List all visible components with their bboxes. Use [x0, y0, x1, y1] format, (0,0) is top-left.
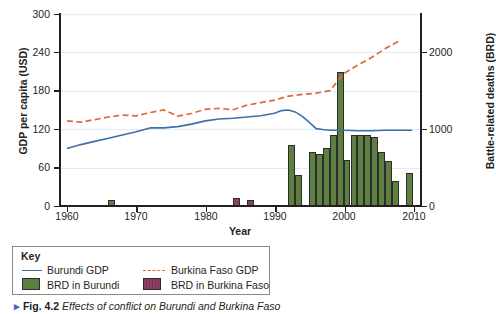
y-tick-left-0 [54, 206, 60, 208]
plot-area [60, 14, 421, 206]
y-tick-right-1000 [421, 129, 427, 131]
y-axis-right-label-0: 0 [429, 201, 473, 211]
legend-label-brd-burkina-faso: BRD in Burkina Faso [171, 279, 269, 291]
y-axis-right-title: Battle-related deaths (BRD) [484, 1, 496, 201]
y-tick-left-300 [54, 14, 60, 16]
legend-title: Key [21, 250, 40, 262]
legend-marker-burundi-gdp [22, 270, 42, 272]
legend-marker-burkina-faso-gdp [143, 270, 165, 271]
y-tick-left-120 [54, 129, 60, 131]
legend-marker-brd-burkina-faso [143, 278, 161, 290]
x-axis-label-1990: 1990 [253, 211, 297, 222]
x-axis-label-1970: 1970 [114, 211, 158, 222]
legend-label-burundi-gdp: Burundi GDP [47, 264, 109, 276]
caption-text: Effects of conflict on Burundi and Burki… [62, 300, 280, 312]
y-tick-left-240 [54, 52, 60, 54]
y-tick-left-60 [54, 167, 60, 169]
y-axis-left-line [59, 13, 61, 207]
caption-bullet-icon: ▸ [14, 300, 20, 312]
figure-caption: ▸ Fig. 4.2 Effects of conflict on Burund… [14, 300, 280, 312]
y-axis-right-label-2000: 2000 [429, 47, 473, 57]
x-axis-label-1960: 1960 [45, 211, 89, 222]
y-tick-right-2000 [421, 52, 427, 54]
y-axis-left-title: GDP per capita (USD) [17, 11, 29, 191]
x-axis-label-2010: 2010 [392, 211, 436, 222]
y-tick-left-180 [54, 90, 60, 92]
y-axis-right-line [420, 13, 422, 207]
x-axis-label-2000: 2000 [322, 211, 366, 222]
x-axis-title: Year [175, 225, 305, 237]
y-axis-left-label-0: 0 [6, 201, 50, 211]
x-axis-label-1980: 1980 [184, 211, 228, 222]
caption-figure-number: Fig. 4.2 [23, 300, 59, 312]
legend-label-brd-burundi: BRD in Burundi [47, 279, 119, 291]
legend-marker-brd-burundi [22, 278, 40, 290]
y-tick-right-0 [421, 206, 427, 208]
x-axis-line [59, 205, 422, 207]
legend-label-burkina-faso-gdp: Burkina Faso GDP [171, 264, 259, 276]
y-axis-right-label-1000: 1000 [429, 124, 473, 134]
line-burkina-faso-gdp [67, 41, 399, 122]
legend-box: Key Burundi GDP Burkina Faso GDP BRD in … [12, 246, 270, 295]
line-series-svg [60, 14, 421, 206]
